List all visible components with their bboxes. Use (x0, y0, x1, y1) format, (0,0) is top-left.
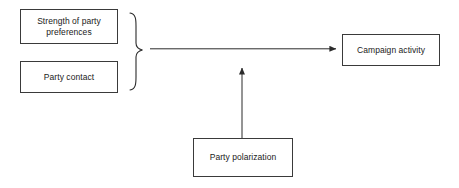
node-strength-of-party-preferences: Strength of party preferences (20, 9, 118, 44)
node-label-contact: Party contact (40, 72, 98, 83)
predictor-group-brace (130, 13, 143, 90)
node-label-polarization: Party polarization (206, 152, 281, 163)
diagram-canvas: Strength of party preferences Party cont… (0, 0, 459, 188)
node-label-campaign: Campaign activity (353, 45, 429, 56)
node-campaign-activity: Campaign activity (342, 34, 440, 66)
node-party-contact: Party contact (20, 61, 118, 93)
node-label-strength: Strength of party preferences (33, 16, 105, 38)
node-party-polarization: Party polarization (193, 138, 293, 177)
